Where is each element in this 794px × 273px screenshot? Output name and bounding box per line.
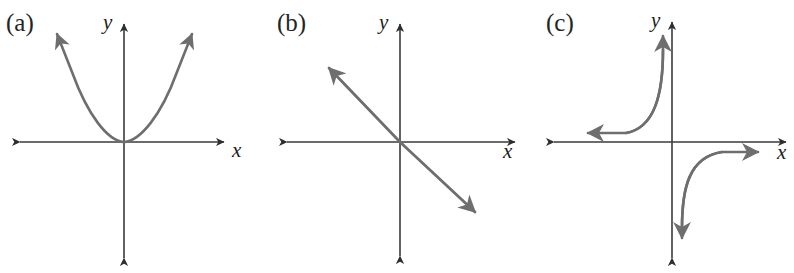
y-axis-label-a: y	[103, 12, 112, 33]
panel-a: (a) y x	[0, 0, 265, 273]
hyperbola-branch-quadrant-ii-vertical	[626, 36, 663, 133]
hyperbola-branch-quadrant-iv-horizontal	[682, 152, 758, 228]
panel-a-graph	[0, 0, 265, 273]
panel-c: (c) y x	[530, 0, 794, 273]
x-axis-label-b: x	[503, 141, 512, 162]
parabola-right-branch	[124, 34, 192, 142]
hyperbola-branch-quadrant-iv-vertical	[682, 152, 722, 238]
panel-b: (b) y x	[265, 0, 530, 273]
panel-label-a: (a)	[6, 10, 34, 35]
panel-c-graph	[530, 0, 794, 273]
figure-three-graph-panels: (a) y x (b) y x	[0, 0, 794, 273]
hyperbola-branch-quadrant-ii-horizontal	[588, 50, 663, 133]
panel-b-graph	[265, 0, 530, 273]
line-upper-left-ray	[329, 68, 400, 142]
y-axis-label-c: y	[651, 10, 660, 31]
panel-label-b: (b)	[277, 10, 306, 35]
panel-label-c: (c)	[546, 10, 574, 35]
parabola-left-branch	[57, 34, 124, 142]
x-axis-label-c: x	[777, 142, 786, 163]
line-lower-right-ray	[400, 142, 475, 212]
x-axis-label-a: x	[232, 140, 241, 161]
y-axis-label-b: y	[379, 12, 388, 33]
